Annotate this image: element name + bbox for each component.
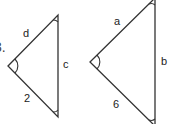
label-b: b [161,55,167,67]
angle-arc-top-icon [149,4,155,5]
label-c: c [63,58,69,70]
label-a: a [114,15,121,27]
label-d: d [23,27,29,39]
angle-arc-bottom-icon [53,110,58,112]
angle-arc-bottom-icon [149,119,155,120]
angle-arc-top-icon [53,20,58,22]
large-triangle: a b 6 [90,0,167,124]
small-triangle-outline [8,15,58,117]
label-2: 2 [24,92,30,104]
similar-triangles-diagram: 3. d c 2 a b 6 [0,0,173,124]
angle-arc-left-icon [15,59,18,73]
label-6: 6 [113,98,119,110]
problem-number: 3. [0,39,6,55]
small-triangle: d c 2 [8,15,69,117]
angle-arc-left-icon [97,55,100,69]
